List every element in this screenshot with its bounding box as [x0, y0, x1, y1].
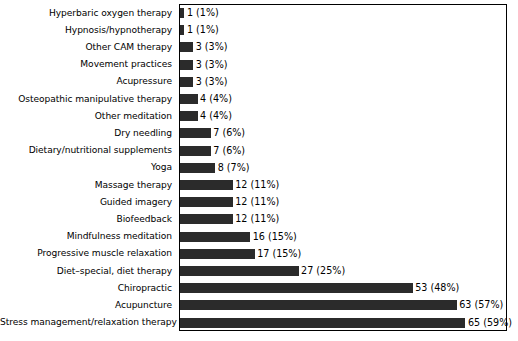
category-label: Stress management/relaxation therapy [0, 317, 172, 327]
plot-area: 1 (1%)1 (1%)3 (3%)3 (3%)3 (3%)4 (4%)4 (4… [179, 4, 507, 331]
category-label: Hypnosis/hypnotherapy [0, 25, 172, 35]
bar [180, 300, 457, 310]
bar [180, 214, 233, 224]
horizontal-bar-chart: Hyperbaric oxygen therapyHypnosis/hypnot… [0, 0, 518, 341]
category-label: Massage therapy [0, 180, 172, 190]
bar [180, 42, 193, 52]
bar-value-label: 7 (6%) [211, 127, 245, 138]
category-label: Yoga [0, 162, 172, 172]
bar-value-label: 12 (11%) [233, 179, 280, 190]
category-label: Chiropractic [0, 283, 172, 293]
bar [180, 197, 233, 207]
bar-value-label: 65 (59%) [465, 317, 512, 328]
category-label: Acupuncture [0, 300, 172, 310]
bar [180, 232, 250, 242]
bar [180, 94, 198, 104]
bar-value-label: 4 (4%) [198, 93, 232, 104]
category-label: Mindfulness meditation [0, 231, 172, 241]
bar [180, 283, 413, 293]
bar-value-label: 12 (11%) [233, 196, 280, 207]
bar [180, 111, 198, 121]
bar [180, 180, 233, 190]
bar [180, 146, 211, 156]
bar-value-label: 1 (1%) [184, 24, 218, 35]
bar-value-label: 3 (3%) [193, 41, 227, 52]
bar [180, 128, 211, 138]
bar-value-label: 17 (15%) [255, 248, 302, 259]
bar-value-label: 53 (48%) [413, 282, 460, 293]
category-label: Osteopathic manipulative therapy [0, 94, 172, 104]
bar [180, 77, 193, 87]
bar-value-label: 4 (4%) [198, 110, 232, 121]
bar [180, 60, 193, 70]
bar [180, 249, 255, 259]
bar-value-label: 8 (7%) [215, 162, 249, 173]
category-label: Hyperbaric oxygen therapy [0, 8, 172, 18]
category-label: Guided imagery [0, 197, 172, 207]
category-label: Other CAM therapy [0, 42, 172, 52]
bar-value-label: 16 (15%) [250, 231, 297, 242]
category-label-column: Hyperbaric oxygen therapyHypnosis/hypnot… [0, 0, 176, 341]
category-label: Progressive muscle relaxation [0, 248, 172, 258]
category-label: Dry needling [0, 128, 172, 138]
category-label: Diet–special, diet therapy [0, 266, 172, 276]
category-label: Movement practices [0, 59, 172, 69]
category-label: Dietary/nutritional supplements [0, 145, 172, 155]
bar-value-label: 63 (57%) [457, 299, 504, 310]
bar-value-label: 3 (3%) [193, 59, 227, 70]
bar [180, 266, 299, 276]
bar-value-label: 12 (11%) [233, 213, 280, 224]
bar [180, 163, 215, 173]
bar [180, 318, 465, 328]
category-label: Biofeedback [0, 214, 172, 224]
bar-value-label: 27 (25%) [299, 265, 346, 276]
bar-value-label: 7 (6%) [211, 145, 245, 156]
category-label: Other meditation [0, 111, 172, 121]
category-label: Acupressure [0, 76, 172, 86]
bar-value-label: 3 (3%) [193, 76, 227, 87]
bar-value-label: 1 (1%) [184, 7, 218, 18]
